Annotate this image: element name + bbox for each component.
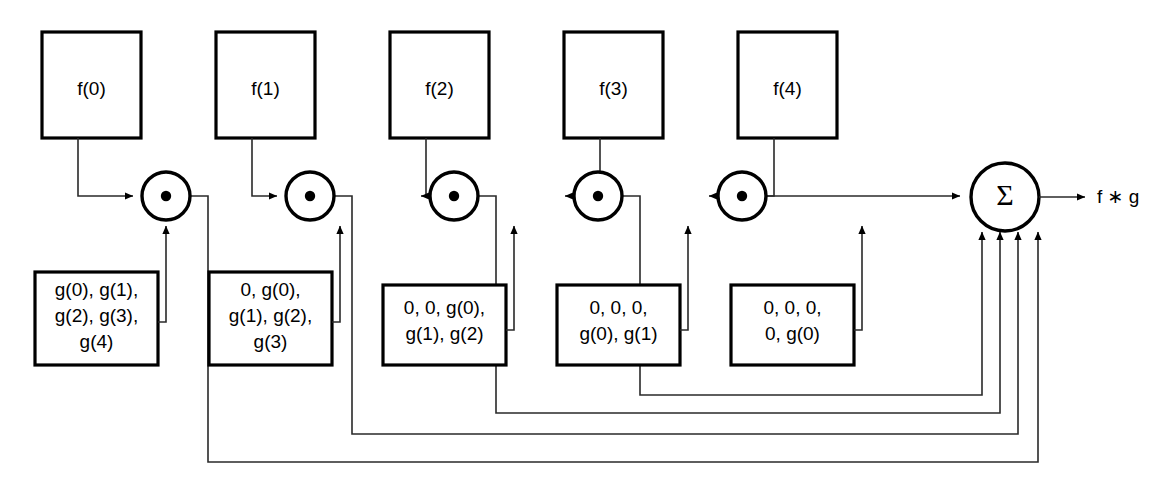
wire-f0-to-mul0: [78, 138, 133, 196]
kernel-box-line: g(0), g(1),: [55, 279, 138, 300]
kernel-box-line: g(0), g(1): [579, 323, 657, 344]
kernel-box-line: 0, 0, 0,: [763, 297, 821, 318]
signal-box-f1[interactable]: f(1): [216, 32, 315, 138]
kernel-box-line: 0, g(0): [765, 323, 820, 344]
signal-box-label: f(0): [77, 78, 106, 99]
multiplier-node-mul1[interactable]: [286, 172, 334, 220]
diagram-canvas: f(0) f(1) f(2) f(3) f(4): [0, 0, 1176, 496]
signal-box-f0[interactable]: f(0): [42, 32, 141, 138]
kernel-box-g0[interactable]: g(0), g(1), g(2), g(3), g(4): [35, 272, 158, 365]
kernel-box-line: g(4): [80, 331, 114, 352]
kernel-box-line: 0, 0, g(0),: [404, 297, 485, 318]
wire-f2-to-mul2: [421, 138, 426, 196]
kernel-box-line: g(3): [254, 331, 288, 352]
signal-box-label: f(2): [425, 78, 454, 99]
multiply-dot-icon: [449, 191, 459, 201]
kernel-box-g2[interactable]: 0, 0, g(0), g(1), g(2): [383, 285, 506, 365]
kernel-box-g1[interactable]: 0, g(0), g(1), g(2), g(3): [209, 272, 332, 365]
sigma-symbol: Σ: [996, 178, 1013, 211]
multiplier-node-mul2[interactable]: [430, 172, 478, 220]
output-label: f ∗ g: [1097, 186, 1139, 207]
multiply-dot-icon: [305, 191, 315, 201]
signal-box-label: f(1): [251, 78, 280, 99]
multiplier-node-mul3[interactable]: [574, 172, 622, 220]
multiply-dot-icon: [737, 191, 747, 201]
multiply-dot-icon: [161, 191, 171, 201]
signal-box-f2[interactable]: f(2): [390, 32, 489, 138]
kernel-box-line: g(1), g(2),: [229, 305, 312, 326]
kernel-box-line: 0, g(0),: [240, 279, 300, 300]
kernel-box-line: g(1), g(2): [405, 323, 483, 344]
kernel-box-g4[interactable]: 0, 0, 0, 0, g(0): [731, 285, 854, 365]
signal-box-f3[interactable]: f(3): [564, 32, 663, 138]
signal-box-f4[interactable]: f(4): [738, 32, 837, 138]
wire-f1-to-mul1: [252, 138, 277, 196]
kernel-box-line: g(2), g(3),: [55, 305, 138, 326]
convolution-dataflow-diagram: f(0) f(1) f(2) f(3) f(4): [0, 0, 1176, 496]
kernel-box-g3[interactable]: 0, 0, 0, g(0), g(1): [557, 285, 680, 365]
multiply-dot-icon: [593, 191, 603, 201]
multiplier-node-mul4[interactable]: [718, 172, 766, 220]
signal-box-label: f(4): [773, 78, 802, 99]
signal-box-label: f(3): [599, 78, 628, 99]
multiplier-node-mul0[interactable]: [142, 172, 190, 220]
kernel-box-line: 0, 0, 0,: [589, 297, 647, 318]
summation-node[interactable]: Σ: [971, 163, 1039, 231]
